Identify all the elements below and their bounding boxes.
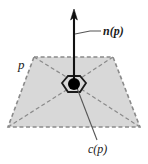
diagram-svg [0,0,148,164]
normal-label-leader-line [75,31,101,34]
centroid-dot [68,78,80,90]
normal-vector-label: n(p) [103,25,124,37]
polygon-label: p [18,58,25,71]
centroid-label: c(p) [88,143,107,155]
figure-container: p n(p) c(p) [0,0,148,164]
